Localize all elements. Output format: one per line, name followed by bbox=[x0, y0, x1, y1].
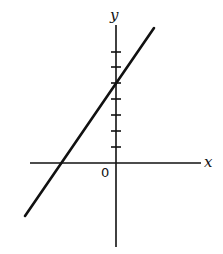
x-axis-label: x bbox=[204, 153, 213, 171]
data-line bbox=[25, 28, 154, 216]
origin-label: 0 bbox=[101, 165, 109, 180]
y-axis-label: y bbox=[109, 6, 119, 24]
graph: x y 0 bbox=[0, 0, 223, 254]
